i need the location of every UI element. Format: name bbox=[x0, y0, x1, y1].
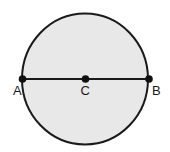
point-b-dot bbox=[145, 75, 153, 83]
label-c: C bbox=[81, 83, 90, 98]
point-a-dot bbox=[19, 75, 27, 83]
point-c-dot bbox=[82, 75, 90, 83]
label-b: B bbox=[152, 83, 161, 98]
label-a: A bbox=[13, 83, 22, 98]
circle-diagram: A C B bbox=[0, 0, 170, 152]
